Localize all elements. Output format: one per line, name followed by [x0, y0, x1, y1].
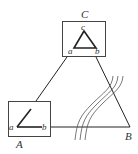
wavy-line-1	[75, 76, 113, 140]
label-C-c: c	[81, 22, 85, 32]
label-A-b: b	[42, 122, 47, 132]
label-B: B	[125, 130, 132, 142]
wavy-line-3	[85, 76, 123, 140]
edge-CA	[36, 57, 67, 101]
label-A: A	[15, 138, 23, 150]
label-C-b: b	[95, 46, 100, 56]
label-C: C	[81, 8, 89, 20]
inner-triangle-C	[74, 31, 96, 48]
triangle-diagram: C c a b a b A B	[0, 0, 138, 154]
label-C-a: a	[68, 46, 73, 56]
label-A-a: a	[9, 122, 14, 132]
inner-angle-A-side	[17, 109, 31, 127]
edge-CB	[96, 57, 130, 127]
wavy-line-2	[80, 76, 118, 140]
wavy-break-lines	[75, 76, 123, 140]
